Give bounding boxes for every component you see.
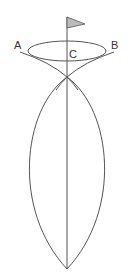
label-a: A bbox=[14, 39, 22, 51]
line-b bbox=[56, 52, 114, 90]
label-b: B bbox=[111, 39, 118, 51]
lens-left-arc bbox=[29, 77, 67, 269]
diagram-canvas: A B C bbox=[0, 0, 139, 277]
label-c: C bbox=[69, 48, 77, 60]
lens-right-arc bbox=[67, 77, 105, 269]
flag-icon bbox=[67, 17, 85, 28]
